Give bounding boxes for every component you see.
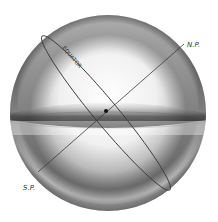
north-pole-label: N.P. [187, 41, 200, 49]
celestial-sphere-diagram: EQUATOR N.P. S.P. [0, 0, 218, 222]
center-dot [104, 109, 108, 113]
sphere-svg: EQUATOR N.P. S.P. [0, 0, 218, 222]
south-pole-label: S.P. [23, 184, 35, 192]
